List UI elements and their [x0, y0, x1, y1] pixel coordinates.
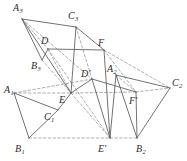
label-subscript: 3	[37, 65, 40, 72]
label-subscript: 1	[51, 116, 54, 123]
label-subscript: 3	[75, 15, 78, 22]
vertex-label-C3: C3	[68, 11, 78, 21]
vertex-label-B1: B1	[15, 144, 24, 154]
label-subscript: 2	[142, 148, 145, 155]
vertex-label-D: D	[41, 36, 48, 46]
segment-C3-E	[71, 27, 76, 93]
label-base: C	[68, 10, 75, 21]
vertex-label-A2: A2	[107, 64, 116, 74]
vertex-label-Eprime: E'	[98, 144, 106, 154]
label-prime: '	[104, 143, 106, 154]
segment-A2-B2	[116, 75, 137, 138]
segment-A3-E	[22, 19, 71, 93]
label-subscript: 2	[113, 68, 116, 75]
segment-Dprime-Eprime	[92, 79, 110, 138]
vertex-label-E: E	[59, 95, 65, 105]
segment-E-Fprime	[71, 92, 136, 93]
label-prime: '	[135, 95, 137, 106]
vertex-label-A1: A1	[4, 85, 13, 95]
segment-Dprime-Fprime	[92, 79, 136, 92]
label-base: F	[98, 37, 104, 48]
vertex-label-Fprime: F'	[129, 96, 137, 106]
vertex-label-Dprime: D'	[81, 69, 90, 79]
segment-A3-B3	[22, 19, 42, 60]
vertex-label-C2: C2	[172, 78, 182, 88]
label-subscript: 3	[19, 7, 22, 14]
label-base: D	[41, 35, 48, 46]
segment-Fprime-C2	[136, 88, 170, 92]
dashed-segments-layer	[14, 19, 170, 138]
segment-D-Eprime	[48, 49, 110, 138]
segment-B3-E	[42, 60, 71, 93]
vertex-label-C1: C1	[44, 112, 54, 122]
segment-A1-Dprime	[14, 79, 92, 93]
label-subscript: 1	[10, 89, 13, 96]
segment-A1-B1	[14, 93, 29, 138]
segment-E-Eprime	[71, 93, 110, 138]
geometry-figure: A3C3DFB3D'A2A1EC2F'C1B1E'B2	[0, 0, 187, 161]
label-subscript: 2	[179, 82, 182, 89]
vertex-label-A3: A3	[13, 3, 22, 13]
label-prime: '	[88, 68, 90, 79]
segment-D-F	[48, 49, 104, 50]
segment-A1-C1	[14, 93, 58, 110]
label-subscript: 1	[21, 148, 24, 155]
label-base: C	[172, 77, 179, 88]
label-base: E	[59, 94, 65, 105]
vertex-label-B2: B2	[136, 144, 145, 154]
segment-C2-B2	[137, 88, 170, 138]
vertex-label-F: F	[98, 38, 104, 48]
figure-canvas	[0, 0, 187, 161]
label-base: C	[44, 111, 51, 122]
vertex-label-B3: B3	[31, 61, 40, 71]
